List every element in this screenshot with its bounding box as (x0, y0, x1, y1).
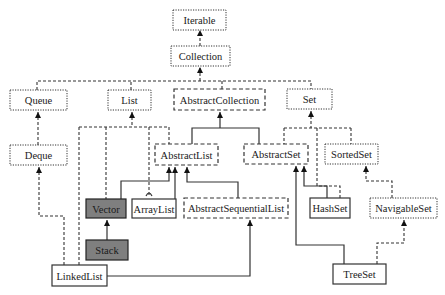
edge-navigableset-sortedset (366, 166, 392, 198)
node-iterable: Iterable (173, 10, 226, 30)
node-vector: Vector (86, 199, 126, 218)
node-abstractset: AbstractSet (244, 144, 308, 164)
edge-abstractcollection-children (192, 112, 259, 144)
arrowhead-icon (166, 167, 172, 173)
arrowhead-icon (301, 166, 307, 172)
node-linkedlist: LinkedList (52, 265, 107, 286)
node-abstractlist: AbstractList (155, 144, 218, 165)
node-list: List (108, 90, 151, 110)
arrowhead-icon (293, 166, 299, 172)
arrowhead-icon (247, 220, 253, 226)
node-label: Deque (25, 150, 53, 161)
node-abstractcollection: AbstractCollection (174, 89, 265, 110)
arrowhead-icon (363, 166, 369, 172)
node-label: NavigableSet (375, 203, 432, 214)
node-treeset: TreeSet (333, 264, 386, 284)
node-label: Iterable (183, 15, 215, 26)
node-label: Vector (92, 204, 120, 215)
nodes: Iterable Collection Queue List AbstractC… (10, 10, 437, 286)
arrowhead-icon (35, 112, 41, 118)
node-arraylist: ArrayList (132, 199, 176, 218)
edge-vector-abstractlist (121, 167, 169, 199)
edge-treeset-navigableset (377, 220, 404, 264)
arrowhead-icon (308, 111, 314, 117)
node-label: AbstractSequentialList (188, 203, 284, 214)
node-hashset: HashSet (310, 198, 350, 218)
node-label: Queue (25, 95, 53, 106)
node-label: Set (303, 94, 317, 105)
node-label: AbstractSet (252, 149, 301, 160)
node-queue: Queue (10, 90, 67, 110)
edge-hashset-abstractset (304, 166, 327, 198)
arrowhead-icon (104, 220, 110, 226)
node-sortedset: SortedSet (325, 144, 378, 164)
arrowhead-icon (129, 112, 135, 118)
arrowhead-icon (36, 167, 42, 173)
collection-hierarchy-diagram: Iterable Collection Queue List AbstractC… (0, 0, 445, 295)
node-label: LinkedList (56, 271, 102, 282)
node-label: AbstractList (161, 150, 213, 161)
edge-collection-bus (37, 68, 311, 90)
edge-linkedlist-deque (39, 167, 64, 265)
node-set: Set (287, 89, 332, 109)
node-label: Stack (95, 245, 119, 256)
node-label: List (121, 95, 137, 106)
arrowhead-icon (401, 220, 407, 226)
node-collection: Collection (171, 46, 230, 66)
node-label: ArrayList (134, 204, 175, 215)
arrowhead-icon (197, 30, 203, 36)
node-deque: Deque (10, 145, 67, 165)
node-navigableset: NavigableSet (370, 198, 437, 218)
node-label: HashSet (313, 203, 348, 214)
node-label: Collection (179, 51, 223, 62)
edge-abstractsequentiallist-abstractlist (187, 167, 238, 198)
arrowhead-icon (197, 67, 203, 73)
node-stack: Stack (86, 240, 128, 260)
node-label: TreeSet (343, 269, 375, 280)
arrowhead-icon (184, 167, 190, 173)
node-abstractsequentiallist: AbstractSequentialList (184, 198, 288, 218)
node-label: AbstractCollection (180, 95, 260, 106)
node-label: SortedSet (331, 149, 372, 160)
arrowhead-icon (172, 167, 178, 173)
arrowhead-icon (217, 112, 223, 118)
